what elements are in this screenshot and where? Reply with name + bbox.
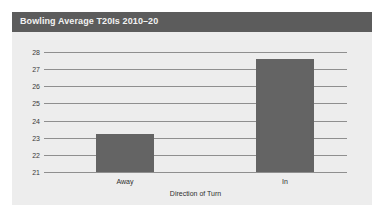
bar-away[interactable] <box>96 134 154 172</box>
y-tick-label: 24 <box>32 117 40 124</box>
chart-title: Bowling Average T20Is 2010–20 <box>20 16 158 26</box>
y-tick-label: 28 <box>32 49 40 56</box>
y-tick-label: 26 <box>32 83 40 90</box>
x-axis-baseline: 21 <box>44 172 347 173</box>
y-tick-label: 21 <box>32 169 40 176</box>
bar-in[interactable] <box>256 59 314 172</box>
plot-area: 28 27 26 25 24 23 22 21 Away In Directio… <box>44 52 347 173</box>
y-tick-label: 23 <box>32 134 40 141</box>
y-tick-label: 25 <box>32 100 40 107</box>
gridline: 28 <box>44 52 347 53</box>
chart-title-bar: Bowling Average T20Is 2010–20 <box>12 12 372 32</box>
x-tick-label-in: In <box>282 178 288 185</box>
y-tick-label: 27 <box>32 66 40 73</box>
chart-card: Bowling Average T20Is 2010–20 28 27 26 2… <box>12 12 372 205</box>
y-tick-label: 22 <box>32 151 40 158</box>
x-axis-title: Direction of Turn <box>170 190 221 197</box>
x-tick-label-away: Away <box>117 178 134 185</box>
